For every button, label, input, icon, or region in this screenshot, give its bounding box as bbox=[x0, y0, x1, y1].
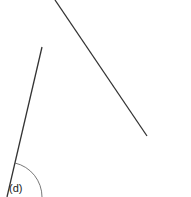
diagram-canvas bbox=[0, 0, 191, 197]
long-line bbox=[55, 0, 147, 136]
short-line bbox=[7, 47, 42, 197]
angle-label: (d) bbox=[9, 182, 22, 194]
